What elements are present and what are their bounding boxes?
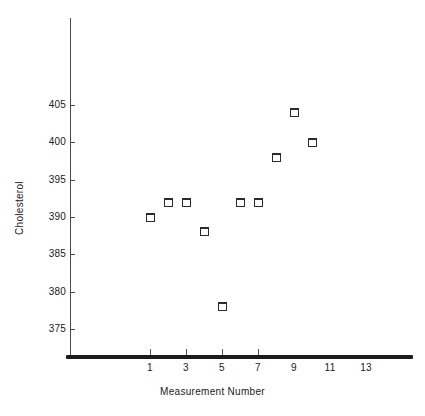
data-point-marker <box>308 138 317 147</box>
y-axis-title: Cholesterol <box>14 168 28 248</box>
data-point-marker <box>146 213 155 222</box>
data-point-marker <box>200 227 209 236</box>
data-point-marker <box>272 153 281 162</box>
scatter-chart-figure: 375380385390395400405 135791113 Measurem… <box>0 0 425 416</box>
data-point-marker <box>182 198 191 207</box>
data-point-marker <box>290 108 299 117</box>
data-point-marker <box>164 198 173 207</box>
data-point-marker <box>254 198 263 207</box>
data-point-marker <box>236 198 245 207</box>
data-points-group <box>0 0 425 416</box>
x-axis-title: Measurement Number <box>0 386 425 397</box>
data-point-marker <box>218 302 227 311</box>
